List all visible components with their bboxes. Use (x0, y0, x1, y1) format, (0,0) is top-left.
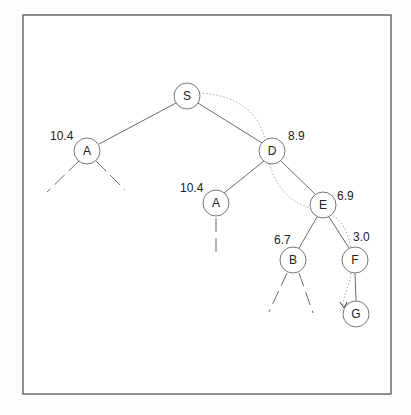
cost-label-b: 6.7 (274, 233, 291, 247)
svg-text:A: A (212, 196, 220, 210)
node-e: E (310, 192, 336, 218)
svg-text:E: E (319, 198, 327, 212)
cost-label-a-left: 10.4 (50, 129, 74, 143)
svg-text:S: S (183, 89, 191, 103)
cost-label-e: 6.9 (337, 189, 354, 203)
search-tree-diagram: S A D A E B F G 10.4 8.9 10.4 6.9 6.7 3.… (0, 0, 411, 415)
node-s: S (174, 83, 200, 109)
node-b: B (280, 247, 306, 273)
node-g: G (343, 301, 369, 327)
svg-text:B: B (289, 253, 297, 267)
svg-text:G: G (351, 307, 360, 321)
cost-label-f: 3.0 (353, 230, 370, 244)
svg-text:F: F (351, 253, 358, 267)
node-a-left: A (74, 138, 100, 164)
node-f: F (342, 247, 368, 273)
svg-text:A: A (83, 144, 91, 158)
svg-text:D: D (268, 144, 277, 158)
cost-label-a-mid: 10.4 (180, 181, 204, 195)
node-a-mid: A (203, 190, 229, 216)
node-d: D (259, 138, 285, 164)
cost-label-d: 8.9 (288, 129, 305, 143)
